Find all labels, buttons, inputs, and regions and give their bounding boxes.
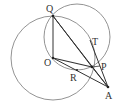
point-q-dot: [52, 15, 55, 18]
label-q: Q: [46, 3, 54, 14]
point-a-dot: [107, 86, 110, 89]
label-t: T: [92, 36, 98, 47]
point-p-dot: [91, 66, 94, 69]
label-r: R: [70, 72, 77, 83]
point-o-dot: [52, 57, 54, 59]
label-p: P: [101, 61, 107, 72]
diagram-canvas: Q O T R P A: [0, 0, 121, 107]
geometry-figure: Q O T R P A: [0, 0, 121, 107]
point-r-dot: [76, 69, 78, 71]
label-o: O: [44, 57, 51, 68]
segment-oa: [53, 58, 108, 87]
label-a: A: [105, 90, 113, 101]
